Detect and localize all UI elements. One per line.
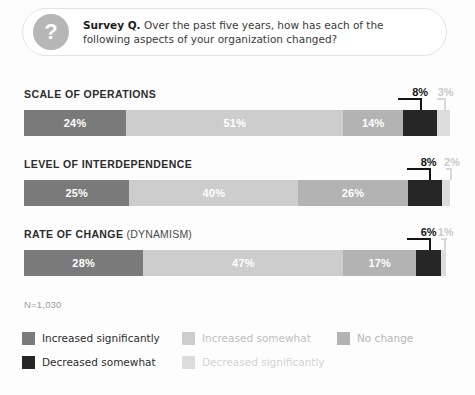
bar-segment[interactable] bbox=[408, 180, 442, 206]
legend-swatch bbox=[337, 332, 350, 345]
legend-swatch bbox=[22, 332, 35, 345]
segment-callout-line-horizontal bbox=[398, 98, 420, 100]
segment-callout-line-vertical bbox=[444, 98, 446, 110]
bar-segment-label: 25% bbox=[65, 187, 88, 199]
bar-segment-label: 14% bbox=[362, 117, 385, 129]
segment-callout-line-horizontal bbox=[407, 168, 429, 170]
segment-callout-line-horizontal bbox=[407, 238, 429, 240]
legend-item[interactable]: No change bbox=[337, 332, 413, 345]
bar-segment-label: 28% bbox=[72, 257, 95, 269]
bar-segment[interactable]: 40% bbox=[129, 180, 298, 206]
question-mark-icon: ? bbox=[33, 14, 69, 50]
survey-question-text: Survey Q. Over the past five years, how … bbox=[83, 18, 432, 46]
legend-label: Increased significantly bbox=[42, 332, 160, 344]
bar-segment[interactable] bbox=[416, 250, 442, 276]
bar-segment[interactable]: 26% bbox=[298, 180, 408, 206]
segment-callout-label: 2% bbox=[444, 156, 460, 168]
bar-segment-label: 51% bbox=[224, 117, 247, 129]
legend-row: Increased significantlyIncreased somewha… bbox=[22, 326, 462, 350]
bar-track: 24%51%14% bbox=[24, 110, 450, 136]
bar-segment-label: 24% bbox=[64, 117, 87, 129]
bar-segment-label: 26% bbox=[342, 187, 365, 199]
segment-callout-label: 3% bbox=[438, 86, 454, 98]
legend-row: Decreased somewhatDecreased significantl… bbox=[22, 350, 462, 374]
legend-label: No change bbox=[357, 332, 413, 344]
bar-segment[interactable]: 24% bbox=[24, 110, 126, 136]
segment-callout-line-vertical bbox=[429, 168, 431, 180]
legend-item[interactable]: Increased somewhat bbox=[182, 332, 337, 345]
legend-label: Decreased significantly bbox=[202, 356, 325, 368]
bar-segment[interactable]: 25% bbox=[24, 180, 129, 206]
bar-segment-label: 40% bbox=[203, 187, 226, 199]
legend-item[interactable]: Decreased significantly bbox=[182, 356, 337, 369]
callout-group: 8%3% bbox=[24, 84, 450, 110]
bar-segment[interactable]: 28% bbox=[24, 250, 143, 276]
segment-callout-line-vertical bbox=[420, 98, 422, 110]
bar-segment[interactable]: 47% bbox=[143, 250, 343, 276]
segment-callout-line-vertical bbox=[450, 168, 452, 180]
stacked-bar[interactable]: 24%51%14% bbox=[24, 110, 450, 136]
chart-legend: Increased significantlyIncreased somewha… bbox=[22, 326, 462, 374]
legend-swatch bbox=[22, 356, 35, 369]
legend-label: Decreased somewhat bbox=[42, 356, 156, 368]
bar-segment[interactable]: 51% bbox=[126, 110, 343, 136]
segment-callout-line-vertical bbox=[444, 238, 446, 250]
stacked-bar[interactable]: 28%47%17% bbox=[24, 250, 450, 276]
bar-segment[interactable]: 14% bbox=[343, 110, 403, 136]
bar-track: 25%40%26% bbox=[24, 180, 450, 206]
bar-segment-label: 47% bbox=[232, 257, 255, 269]
segment-callout-label: 1% bbox=[438, 226, 454, 238]
segment-callout-label: 8% bbox=[421, 156, 437, 168]
bar-segment-label: 17% bbox=[368, 257, 391, 269]
bar-segment[interactable] bbox=[437, 110, 450, 136]
legend-item[interactable]: Increased significantly bbox=[22, 332, 182, 345]
legend-swatch bbox=[182, 332, 195, 345]
segment-callout-line-vertical bbox=[429, 238, 431, 250]
stacked-bar[interactable]: 25%40%26% bbox=[24, 180, 450, 206]
bar-segment[interactable] bbox=[442, 180, 450, 206]
legend-label: Increased somewhat bbox=[202, 332, 311, 344]
bar-segment[interactable] bbox=[441, 250, 445, 276]
bar-track: 28%47%17% bbox=[24, 250, 450, 276]
sample-size-note: N=1,030 bbox=[24, 299, 62, 310]
stacked-bar-chart-group: SCALE OF OPERATIONS8%3%24%51%14%LEVEL OF… bbox=[0, 84, 475, 294]
segment-callout-label: 6% bbox=[421, 226, 437, 238]
legend-item[interactable]: Decreased somewhat bbox=[22, 356, 182, 369]
callout-group: 6%1% bbox=[24, 224, 450, 250]
bar-segment[interactable]: 17% bbox=[343, 250, 415, 276]
chart-block: RATE OF CHANGE (DYNAMISM)6%1%28%47%17% bbox=[0, 224, 475, 284]
survey-question-lead: Survey Q. bbox=[83, 19, 141, 31]
bar-segment[interactable] bbox=[403, 110, 437, 136]
segment-callout-label: 8% bbox=[412, 86, 428, 98]
callout-group: 8%2% bbox=[24, 154, 450, 180]
legend-swatch bbox=[182, 356, 195, 369]
survey-question-box: ? Survey Q. Over the past five years, ho… bbox=[22, 8, 447, 56]
chart-block: LEVEL OF INTERDEPENDENCE8%2%25%40%26% bbox=[0, 154, 475, 214]
chart-block: SCALE OF OPERATIONS8%3%24%51%14% bbox=[0, 84, 475, 144]
